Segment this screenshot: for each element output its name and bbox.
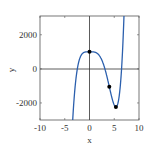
x-axis-label: x (87, 135, 92, 145)
chart: -10-50510-200002000 x y (0, 0, 154, 152)
y-tick-label: 2000 (19, 30, 38, 40)
data-point (114, 105, 118, 109)
data-point (88, 50, 92, 54)
x-tick-label: 10 (135, 123, 145, 133)
y-axis-label: y (6, 67, 16, 72)
x-tick-label: -5 (61, 123, 69, 133)
x-tick-label: 5 (112, 123, 117, 133)
x-tick-label: -10 (34, 123, 46, 133)
data-point (107, 85, 111, 89)
y-tick-label: -2000 (16, 98, 37, 108)
x-tick-label: 0 (87, 123, 92, 133)
y-tick-label: 0 (33, 64, 38, 74)
